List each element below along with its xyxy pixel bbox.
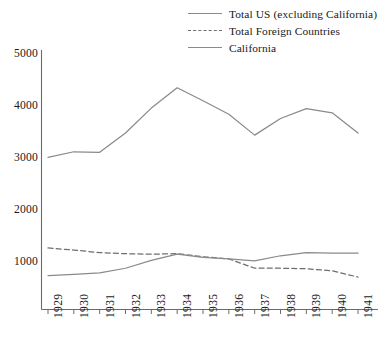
x-tick-label: 1933	[156, 294, 168, 318]
x-tick-label: 1929	[53, 294, 65, 318]
y-axis-tick-labels: 50004000300020001000	[0, 0, 38, 359]
x-tick-label: 1930	[79, 294, 91, 318]
x-tick-label: 1934	[182, 294, 194, 318]
x-tick-label: 1938	[286, 294, 298, 318]
y-tick-label: 4000	[2, 100, 38, 112]
x-tick-label: 1935	[208, 294, 220, 318]
y-tick-label: 5000	[2, 48, 38, 60]
chart-figure: Total US (excluding California) Total Fo…	[0, 0, 384, 359]
series-line-california	[48, 253, 358, 276]
x-tick-label: 1937	[260, 294, 272, 318]
x-tick-label: 1941	[363, 294, 375, 318]
x-tick-label: 1940	[337, 294, 349, 318]
y-tick-label: 3000	[2, 152, 38, 164]
x-tick-label: 1936	[234, 294, 246, 318]
x-tick-label: 1931	[105, 294, 117, 318]
x-tick-label: 1939	[311, 294, 323, 318]
plot-area: 50004000300020001000 1929193019311932193…	[0, 0, 384, 359]
y-tick-label: 2000	[2, 204, 38, 216]
x-tick-label: 1932	[131, 294, 143, 318]
series-line-total-us-excluding-california	[48, 88, 358, 158]
y-tick-label: 1000	[2, 256, 38, 268]
data-series-layer	[48, 88, 358, 277]
